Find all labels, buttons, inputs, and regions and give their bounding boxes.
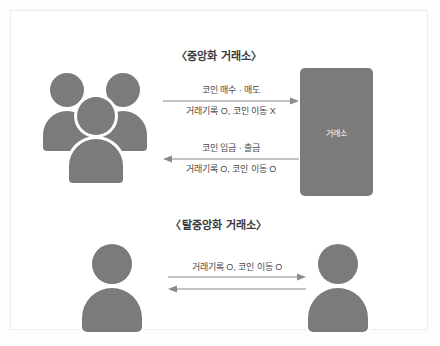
flow-peer-to-peer-label-above: 거래기록 O, 코인 이동 O [166, 260, 308, 273]
user-group-icon [44, 67, 149, 175]
flow-buy-sell: 코인 매수 · 매도 거래기록 O, 코인 이동 X [161, 83, 301, 119]
person-head [77, 97, 115, 135]
person-head [92, 244, 132, 284]
user-right-icon [307, 244, 369, 322]
flow-deposit-withdraw-label-above: 코인 입금 · 출금 [161, 141, 301, 154]
section-title-decentralized: 〈탈중앙화 거래소〉 [11, 216, 427, 232]
person-body [82, 288, 142, 332]
exchange-node-label: 거래소 [326, 127, 348, 138]
user-left-icon [81, 244, 143, 322]
flow-deposit-withdraw-label-below: 거래기록 O, 코인 이동 O [161, 162, 301, 175]
diagram-frame: 〈중앙화 거래소〉 거래소 코인 매수 · 매도 [10, 10, 428, 330]
flow-buy-sell-label-above: 코인 매수 · 매도 [161, 83, 301, 96]
person-head [50, 73, 84, 107]
flow-deposit-withdraw: 코인 입금 · 출금 거래기록 O, 코인 이동 O [161, 141, 301, 177]
exchange-node: 거래소 [300, 68, 373, 196]
diagram-canvas: 〈중앙화 거래소〉 거래소 코인 매수 · 매도 [0, 0, 440, 346]
section-title-centralized: 〈중앙화 거래소〉 [11, 47, 427, 63]
arrow-bidirectional-icon [166, 273, 308, 295]
flow-buy-sell-label-below: 거래기록 O, 코인 이동 X [161, 104, 301, 117]
person-head [106, 73, 140, 107]
flow-peer-to-peer: 거래기록 O, 코인 이동 O [166, 260, 308, 296]
person-body [308, 288, 368, 332]
person-head [318, 244, 358, 284]
